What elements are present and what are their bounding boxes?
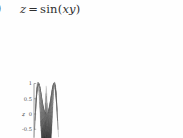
- equation-equals: =: [28, 2, 38, 16]
- surface-plot-canvas: 10.50-0.5-1z-2-1012x-2-1012y: [0, 16, 183, 138]
- equation-arguments-xy: xy: [62, 2, 75, 16]
- equation-variable-z: z: [20, 2, 26, 16]
- figure-root: ) z=sin(xy) 10.50-0.5-1z-2-1012x-2-1012y: [0, 0, 183, 138]
- equation-close-paren: ): [76, 2, 81, 16]
- figure-caption: ) z=sin(xy): [0, 1, 183, 17]
- surface-plot: 10.50-0.5-1z-2-1012x-2-1012y: [0, 16, 183, 138]
- z-axis-label: z: [21, 111, 25, 117]
- equation-label: z=sin(xy): [20, 1, 80, 17]
- z-tick-label: -0.5: [22, 126, 32, 132]
- surface-mesh: [34, 82, 59, 138]
- equation-sin-open: sin(: [40, 2, 62, 16]
- z-tick-label: 0.5: [24, 96, 32, 102]
- z-tick-label: 1: [29, 80, 32, 86]
- subfigure-label: ): [0, 1, 1, 17]
- z-tick-label: 0: [29, 111, 32, 117]
